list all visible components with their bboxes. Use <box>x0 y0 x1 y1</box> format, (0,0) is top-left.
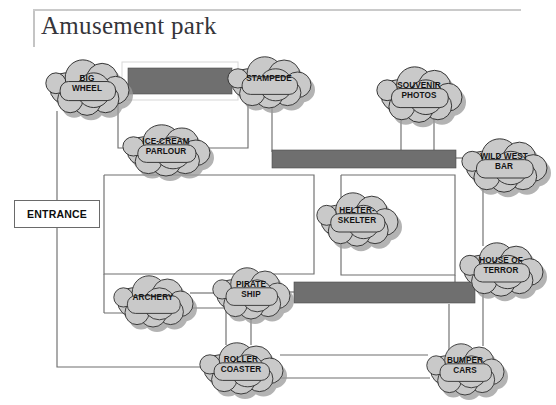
attraction-clouds <box>46 57 551 400</box>
cloud-wild-west-bar[interactable] <box>462 139 551 197</box>
path-bar-lower <box>294 282 475 303</box>
cloud-archery[interactable] <box>114 276 197 332</box>
cloud-stampede[interactable] <box>228 57 315 113</box>
entrance-box[interactable]: ENTRANCE <box>14 200 100 228</box>
cloud-bumper-cars[interactable] <box>427 344 508 400</box>
cloud-big-wheel[interactable] <box>46 60 133 120</box>
cloud-ice-cream-parlour[interactable] <box>123 125 214 181</box>
page-frame <box>33 10 521 47</box>
connector-stampede-icecream <box>203 100 248 148</box>
plaza-rectangle-left <box>104 175 314 274</box>
cloud-helter-skelter[interactable] <box>317 193 402 251</box>
amusement-park-diagram-page: Amusement park <box>0 0 556 405</box>
cloud-roller-coaster[interactable] <box>200 343 287 399</box>
path-bar-top <box>122 62 238 100</box>
entrance-label: ENTRANCE <box>27 208 87 220</box>
path-bar-middle <box>272 150 456 168</box>
cloud-souvenir-photos[interactable] <box>377 67 466 127</box>
connector-network <box>57 100 483 378</box>
cloud-pirate-ship[interactable] <box>213 268 294 324</box>
